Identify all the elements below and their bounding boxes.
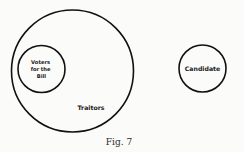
voters-label-line-1: Voters (31, 59, 50, 65)
euler-diagram: Voters for the Bill Traitors Candidate F… (0, 0, 244, 152)
candidate-label: Candidate (185, 65, 220, 72)
traitors-label: Traitors (78, 104, 105, 111)
figure-caption: Fig. 7 (106, 137, 133, 147)
voters-label-line-2: for the (31, 66, 51, 72)
voters-for-the-bill-label: Voters for the Bill (31, 59, 53, 79)
voters-label-line-3: Bill (37, 73, 47, 79)
